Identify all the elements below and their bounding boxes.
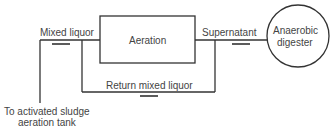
destination-label-1: To activated sludge [4,106,90,117]
destination-label-2: aeration tank [18,117,76,127]
return-label: Return mixed liquor [106,80,193,91]
aeration-label: Aeration [129,35,166,46]
digester-circle [267,5,329,67]
mixed-liquor-label: Mixed liquor [40,27,94,38]
digester-label-1: Anaerobic [273,25,318,36]
supernatant-label: Supernatant [202,27,257,38]
digester-label-2: digester [277,37,313,48]
